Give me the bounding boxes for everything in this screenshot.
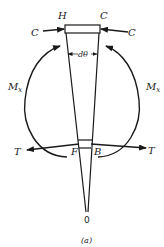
top-flange-box	[65, 25, 100, 33]
label-mx-right: Mx	[145, 81, 160, 94]
label-mx-left: Mx	[7, 81, 22, 94]
label-dtheta: dθ	[78, 50, 88, 59]
label-f: F	[70, 146, 79, 157]
wedge-right-side	[88, 33, 99, 212]
compression-arrow-left	[43, 29, 64, 31]
beam-element-diagram: H C C C dθ Mx Mx T T F B 0 (a)	[0, 0, 164, 247]
label-t-left: T	[14, 146, 22, 157]
label-h: H	[57, 10, 67, 21]
label-c-left: C	[31, 27, 39, 38]
label-c-top: C	[100, 10, 108, 21]
label-t-right: T	[148, 145, 156, 156]
label-apex-zero: 0	[84, 215, 90, 225]
moment-arc-right	[98, 46, 139, 157]
compression-arrow-right	[101, 29, 128, 32]
label-c-right: C	[128, 27, 136, 38]
figure-caption: (a)	[81, 236, 92, 245]
moment-arc-left	[25, 46, 67, 157]
label-b: B	[93, 146, 101, 157]
wedge-left-side	[66, 33, 86, 212]
